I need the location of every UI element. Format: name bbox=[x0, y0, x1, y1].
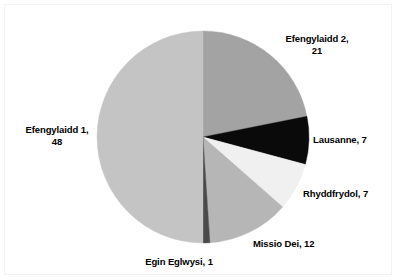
pie-slice-group bbox=[97, 31, 309, 243]
slice-label-egin-eglwysi: Egin Eglwysi, 1 bbox=[127, 256, 231, 268]
slice-label-lausanne: Lausanne, 7 bbox=[313, 134, 393, 146]
slice-label-efengylaidd-2: Efengylaidd 2, 21 bbox=[269, 33, 365, 57]
slice-label-rhyddfrydol: Rhyddfrydol, 7 bbox=[303, 188, 393, 200]
slice-label-missio-dei: Missio Dei, 12 bbox=[253, 238, 343, 250]
slice-label-efengylaidd-1: Efengylaidd 1, 48 bbox=[9, 124, 105, 148]
pie-slice-efengylaidd-1 bbox=[97, 31, 203, 243]
pie-chart-figure: Efengylaidd 2, 21 Lausanne, 7 Rhyddfrydo… bbox=[0, 0, 397, 280]
